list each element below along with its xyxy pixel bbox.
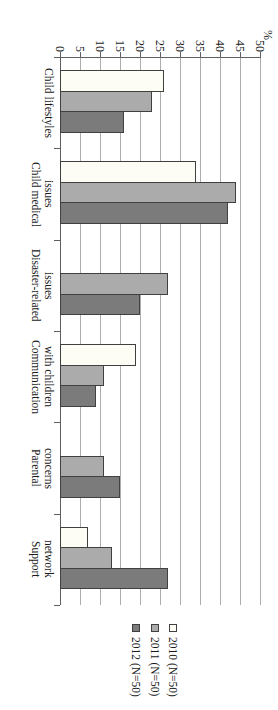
axis-tick-label: 20	[133, 25, 146, 52]
gridline	[100, 57, 101, 605]
bar-2010-1	[60, 70, 164, 92]
gridline	[240, 57, 241, 605]
bar-2012-5	[60, 476, 120, 498]
axis-tick-label: 25	[153, 25, 166, 52]
value-axis-line	[57, 57, 261, 58]
category-label: Child medical issues	[29, 148, 55, 239]
legend-item: 2011 (N=50)	[147, 624, 163, 696]
legend-label: 2012 (N=50)	[130, 637, 142, 697]
axis-tick-label: 40	[213, 25, 226, 52]
axis-tick-label: 5	[73, 25, 86, 52]
bar-2012-4	[60, 385, 96, 407]
legend-swatch	[169, 624, 177, 632]
gridline	[260, 57, 261, 605]
legend-swatch	[151, 624, 159, 632]
bar-2012-6	[60, 568, 168, 590]
legend-swatch	[132, 624, 140, 632]
category-axis-line	[60, 57, 61, 605]
bar-2012-1	[60, 111, 124, 133]
legend-label: 2011 (N=50)	[149, 637, 161, 696]
gridline	[200, 57, 201, 605]
bar-2010-2	[60, 161, 196, 183]
axis-tick-label: 15	[113, 25, 126, 52]
gridline	[120, 57, 121, 605]
bar-2011-5	[60, 456, 104, 478]
gridline	[220, 57, 221, 605]
bar-2011-6	[60, 547, 112, 569]
legend-item: 2010 (N=50)	[165, 624, 181, 697]
gridline	[80, 57, 81, 605]
gridline	[160, 57, 161, 605]
axis-tick-label: 30	[173, 25, 186, 52]
gridline	[180, 57, 181, 605]
axis-tick-label: 35	[193, 25, 206, 52]
bar-2012-2	[60, 202, 228, 224]
legend-label: 2010 (N=50)	[167, 637, 179, 697]
legend-item: 2012 (N=50)	[128, 624, 144, 697]
bar-2011-1	[60, 91, 152, 113]
category-boundary-tick	[54, 605, 60, 606]
bar-chart: % 05101520253035404550Child lifestylesCh…	[0, 0, 278, 710]
axis-tick-label: 45	[233, 25, 246, 52]
axis-tick-label: 0	[53, 25, 66, 52]
axis-tick-label: 10	[93, 25, 106, 52]
bar-2010-6	[60, 527, 88, 549]
bar-2012-3	[60, 294, 140, 316]
category-label: Child lifestyles	[42, 57, 55, 148]
axis-tick-label: 50	[253, 25, 266, 52]
bar-2011-2	[60, 182, 236, 204]
category-label: Parental concerns	[29, 422, 55, 513]
gridline	[140, 57, 141, 605]
bar-2011-4	[60, 365, 104, 387]
category-label: Disaster-related issues	[29, 240, 55, 331]
bar-2011-3	[60, 273, 168, 295]
category-label: Support network	[29, 514, 55, 605]
category-label: Communication with children	[29, 331, 55, 422]
bar-2010-4	[60, 344, 136, 366]
